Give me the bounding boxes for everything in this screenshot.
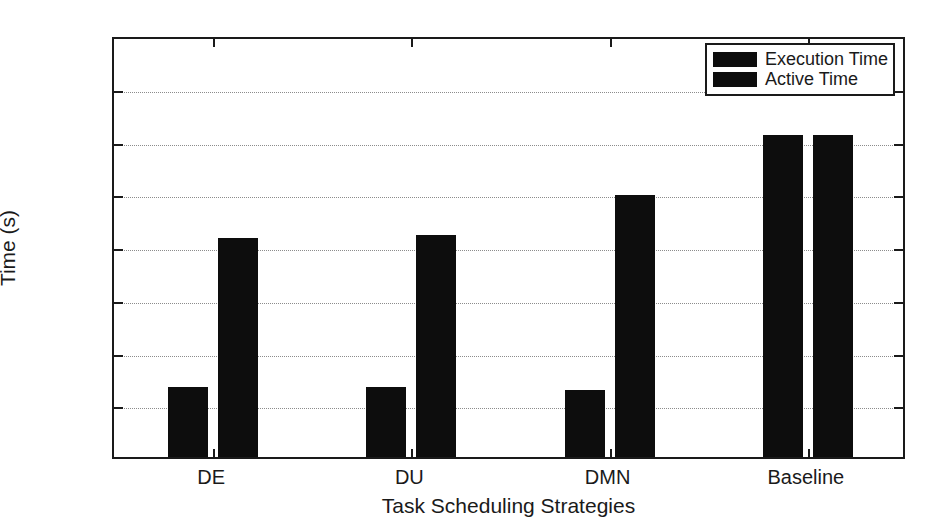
x-tick-label-du: DU	[395, 466, 424, 489]
bar-chart-figure: Time (s) 0100020003000400050006000700080…	[0, 0, 939, 529]
x-tick-mark	[808, 449, 810, 457]
legend-label-active-time: Active Time	[765, 70, 858, 88]
bar-dmn-active-time	[615, 195, 655, 457]
y-tick-mark	[114, 196, 123, 198]
x-tick-mark	[411, 449, 413, 457]
x-tick-mark	[213, 449, 215, 457]
legend-item: Execution Time	[713, 49, 887, 69]
legend-label-execution-time: Execution Time	[765, 50, 888, 68]
y-tick-mark	[114, 144, 123, 146]
x-tick-mark	[213, 39, 215, 47]
bar-baseline-active-time	[813, 135, 853, 457]
chart-legend: Execution Time Active Time	[705, 43, 895, 96]
bar-baseline-execution-time	[763, 135, 803, 457]
y-tick-mark	[894, 144, 903, 146]
x-tick-label-de: DE	[197, 466, 225, 489]
legend-swatch-active-time	[713, 72, 757, 87]
y-tick-mark	[894, 249, 903, 251]
x-tick-label-baseline: Baseline	[768, 466, 845, 489]
y-tick-mark	[114, 302, 123, 304]
bar-du-execution-time	[366, 387, 406, 457]
x-tick-label-dmn: DMN	[585, 466, 631, 489]
plot-area	[114, 39, 903, 457]
y-tick-mark	[894, 196, 903, 198]
y-tick-mark	[114, 355, 123, 357]
legend-item: Active Time	[713, 69, 887, 89]
x-tick-mark	[610, 39, 612, 47]
y-tick-mark	[894, 355, 903, 357]
y-tick-mark	[894, 407, 903, 409]
y-tick-mark	[114, 249, 123, 251]
y-tick-mark	[894, 302, 903, 304]
bar-du-active-time	[416, 235, 456, 457]
bar-de-execution-time	[168, 387, 208, 457]
y-tick-mark	[894, 91, 903, 93]
plot-frame	[112, 37, 905, 459]
y-tick-mark	[114, 407, 123, 409]
y-axis-title: Time (s)	[0, 210, 20, 286]
x-tick-mark	[610, 449, 612, 457]
legend-swatch-execution-time	[713, 52, 757, 67]
y-tick-mark	[114, 91, 123, 93]
x-axis-title: Task Scheduling Strategies	[112, 494, 905, 518]
bar-dmn-execution-time	[565, 390, 605, 457]
x-tick-mark	[411, 39, 413, 47]
bar-de-active-time	[218, 238, 258, 457]
